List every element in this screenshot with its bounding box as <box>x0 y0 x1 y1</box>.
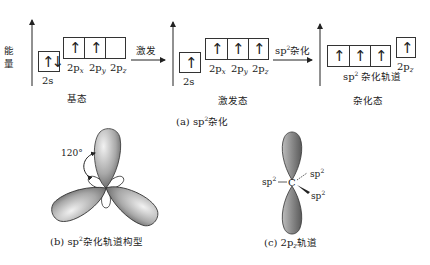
figure-c-caption: (c) 2pz轨道 <box>264 238 317 250</box>
2pz-dumbbell <box>0 0 430 265</box>
sp2-bond-label-left: sp2 <box>262 176 276 187</box>
bond-front-wedge <box>297 185 310 194</box>
pz-lobe-lower <box>282 186 301 234</box>
sp2-bond-label-lower-right: sp2 <box>311 190 325 201</box>
bond-back-dashed <box>297 173 307 180</box>
carbon-atom: C <box>288 178 296 188</box>
pz-lobe-upper <box>282 132 301 180</box>
sp2-bond-label-upper-right: sp2 <box>310 168 324 179</box>
